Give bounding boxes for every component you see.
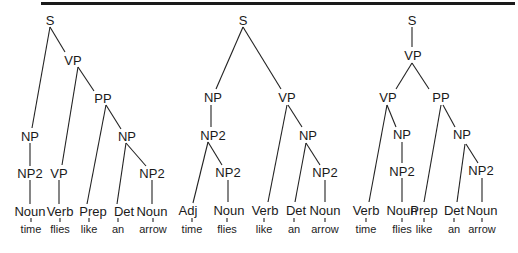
tree-word: an — [288, 224, 300, 235]
tree-node-s: S — [408, 14, 417, 27]
tree-edge — [117, 143, 126, 204]
tree-edge — [50, 27, 65, 52]
tree-node-vp: VP — [379, 91, 396, 104]
tree-node-s: S — [239, 14, 248, 27]
tree-edge — [106, 105, 121, 129]
tree-edge — [78, 67, 94, 91]
tree-node-np: NP — [299, 129, 317, 142]
tree-word: like — [256, 224, 273, 235]
tree-edge — [306, 143, 320, 165]
tree-node-np: NP — [118, 130, 136, 143]
tree-word: arrow — [311, 224, 339, 235]
tree-word: an — [448, 224, 460, 235]
tree-word: time — [21, 224, 42, 235]
tree-node-np2: NP2 — [17, 167, 42, 180]
tree-edge — [216, 27, 243, 89]
tree-word: time — [182, 224, 203, 235]
tree-edge — [466, 144, 478, 163]
tree-node-np: NP — [393, 128, 411, 141]
tree-word: an — [112, 224, 124, 235]
tree-node-det: Det — [286, 204, 306, 217]
tree-node-np2: NP2 — [200, 129, 225, 142]
tree-edge — [32, 27, 50, 128]
tree-edge — [87, 105, 106, 204]
tree-node-pp: PP — [432, 91, 449, 104]
tree-node-noun: Noun — [14, 205, 45, 218]
tree-word: like — [81, 224, 98, 235]
tree-word: like — [416, 224, 433, 235]
tree-node-noun: Noun — [309, 204, 340, 217]
tree-node-verb: Verb — [47, 205, 74, 218]
tree-node-noun: Noun — [213, 204, 244, 217]
tree-node-np2: NP2 — [139, 167, 164, 180]
tree-edge — [424, 105, 441, 202]
tree-node-prep: Prep — [79, 205, 106, 218]
tree-edge — [126, 143, 146, 166]
tree-word: flies — [217, 224, 237, 235]
tree-edge — [457, 144, 465, 202]
tree-word: arrow — [139, 224, 167, 235]
tree-word: time — [356, 224, 377, 235]
tree-edge — [387, 105, 396, 127]
tree-word: flies — [50, 224, 70, 235]
tree-node-verb: Verb — [252, 204, 279, 217]
tree-node-noun: Noun — [466, 204, 497, 217]
tree-word: flies — [392, 224, 412, 235]
tree-node-vp: VP — [64, 54, 81, 67]
tree-node-np: NP — [453, 128, 471, 141]
tree-node-np2: NP2 — [389, 165, 414, 178]
tree-node-vp: VP — [50, 167, 67, 180]
tree-edge — [412, 63, 429, 89]
tree-node-vp: VP — [278, 91, 295, 104]
tree-word: arrow — [468, 224, 496, 235]
tree-node-prep: Prep — [410, 204, 437, 217]
tree-node-pp: PP — [94, 92, 111, 105]
tree-edge — [295, 143, 306, 202]
tree-node-det: Det — [114, 205, 134, 218]
tree-node-adj: Adj — [179, 204, 198, 217]
tree-node-np: NP — [21, 130, 39, 143]
tree-edge — [268, 105, 287, 202]
tree-node-np2: NP2 — [312, 166, 337, 179]
tree-edge — [193, 142, 208, 203]
tree-edge — [396, 63, 412, 89]
tree-edge — [243, 27, 281, 89]
tree-edge — [369, 105, 387, 202]
tree-node-verb: Verb — [353, 204, 380, 217]
tree-node-np2: NP2 — [468, 164, 493, 177]
tree-node-np2: NP2 — [215, 166, 240, 179]
tree-edge — [288, 105, 302, 127]
tree-edge — [443, 105, 455, 127]
tree-node-np: NP — [204, 91, 222, 104]
tree-edge — [62, 67, 78, 165]
tree-node-noun: Noun — [136, 205, 167, 218]
tree-edge — [208, 142, 222, 165]
tree-node-vp: VP — [404, 49, 421, 62]
parse-tree-figure: SVPPPNPNPNP2VPNP2NounVerbPrepDetNountime… — [0, 0, 518, 253]
tree-node-s: S — [46, 14, 55, 27]
tree-node-det: Det — [444, 204, 464, 217]
